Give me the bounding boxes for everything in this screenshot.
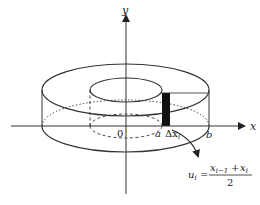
shell-strip <box>162 93 170 126</box>
b-label: b <box>206 129 212 140</box>
svg-text:xi: xi <box>240 162 248 175</box>
svg-text:+: + <box>231 162 239 173</box>
svg-text:2: 2 <box>227 177 233 188</box>
delta-x-label: Δxi <box>165 128 180 141</box>
shell-method-diagram: y x 0 a Δxi b ui = xi−1 + xi 2 <box>0 0 260 205</box>
origin-label: 0 <box>117 128 123 139</box>
a-label: a <box>155 128 161 139</box>
y-axis-label: y <box>121 4 129 17</box>
svg-text:xi−1: xi−1 <box>210 162 228 175</box>
svg-text:=: = <box>200 169 208 180</box>
x-axis-label: x <box>250 120 257 133</box>
svg-text:ui: ui <box>188 169 197 182</box>
midpoint-formula: ui = xi−1 + xi 2 <box>188 162 252 188</box>
